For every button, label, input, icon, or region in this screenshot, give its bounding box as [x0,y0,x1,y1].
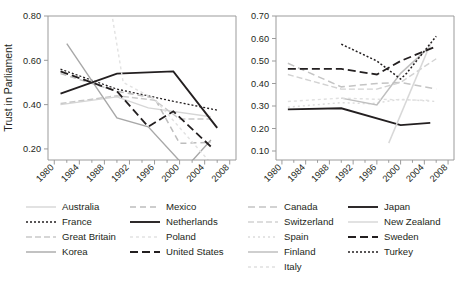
legend-item-korea[interactable]: Korea [26,244,130,259]
legend-label: Switzerland [284,216,334,227]
legend-item-italy[interactable]: Italy [248,259,348,274]
x-tick-label: 2000 [380,162,402,184]
x-tick-label: 2004 [185,162,207,184]
legend-label: Mexico [166,201,196,212]
series-line-canada [288,63,436,89]
legend-column: CanadaSwitzerlandSpainFinlandItaly [248,199,348,274]
legend-label: Japan [384,201,410,212]
x-tick-label: 2008 [210,162,232,184]
y-tick-label: 0.40 [251,79,269,89]
legend-column: MexicoNetherlandsPolandUnited States [130,199,248,259]
legend-item-france[interactable]: France [26,214,130,229]
legend-swatch-italy [248,262,278,272]
x-tick-label: 1996 [134,162,156,184]
legend-swatch-france [26,217,56,227]
x-tick-label: 1988 [84,162,106,184]
legend-swatch-great-britain [26,232,56,242]
legend-swatch-spain [248,232,278,242]
legend-item-great-britain[interactable]: Great Britain [26,229,130,244]
legend-label: Korea [62,246,88,257]
series-line-japan [288,108,430,125]
y-tick-label: 0.70 [251,11,269,21]
legend-swatch-korea [26,247,56,257]
legend-item-new-zealand[interactable]: New Zealand [348,214,460,229]
series-line-great-britain [61,96,211,119]
legend-column: AustraliaFranceGreat BritainKorea [26,199,130,259]
legend-column: JapanNew ZealandSwedenTurkey [348,199,460,274]
legend-item-canada[interactable]: Canada [248,199,348,214]
x-tick-label: 2008 [428,162,450,184]
legend-item-united-states[interactable]: United States [130,244,248,259]
series-line-new-zealand [389,44,431,143]
legend-item-netherlands[interactable]: Netherlands [130,214,248,229]
legend-label: Finland [284,246,315,257]
x-tick-label: 1980 [34,162,56,184]
legend-label: Italy [284,261,302,272]
y-tick-label: 0.60 [23,56,41,66]
x-tick-label: 2000 [159,162,181,184]
legend-swatch-sweden [348,232,378,242]
legend-swatch-poland [130,232,160,242]
legend-item-australia[interactable]: Australia [26,199,130,214]
x-tick-label: 2004 [404,162,426,184]
legend-swatch-united-states [130,247,160,257]
y-tick-label: 0.80 [23,11,41,21]
figure-container: 0.800.600.400.20198019841988199219962000… [0,0,462,282]
legend-item-sweden[interactable]: Sweden [348,229,460,244]
left-chart-panel: 0.800.600.400.20198019841988199219962000… [0,0,240,200]
legend-item-japan[interactable]: Japan [348,199,460,214]
legend-swatch-japan [348,202,378,212]
x-tick-label: 1992 [333,162,355,184]
legend-item-mexico[interactable]: Mexico [130,199,248,214]
legend-label: New Zealand [384,216,441,227]
legend-label: Poland [166,231,196,242]
legend-label: Netherlands [166,216,218,227]
x-tick-label: 1984 [286,162,308,184]
series-line-mexico [61,74,211,144]
legend-swatch-netherlands [130,217,160,227]
legend-swatch-turkey [348,247,378,257]
legend-swatch-finland [248,247,278,257]
legend-swatch-australia [26,202,56,212]
y-axis-title: Trust in Parliament [2,44,14,132]
legend-item-finland[interactable]: Finland [248,244,348,259]
x-tick-label: 1996 [357,162,379,184]
x-tick-label: 1992 [109,162,131,184]
legend-item-spain[interactable]: Spain [248,229,348,244]
legend-swatch-mexico [130,202,160,212]
series-line-united-states [61,71,211,146]
legend-label: Australia [62,201,99,212]
y-tick-label: 0.50 [251,56,269,66]
left-chart-legend: AustraliaFranceGreat BritainKoreaMexicoN… [26,199,248,259]
legend-item-switzerland[interactable]: Switzerland [248,214,348,229]
y-tick-label: 0.30 [251,101,269,111]
right-chart-legend: CanadaSwitzerlandSpainFinlandItalyJapanN… [248,199,460,274]
legend-swatch-new-zealand [348,217,378,227]
series-line-korea [67,44,211,168]
legend-label: United States [166,246,224,257]
legend-label: France [62,216,92,227]
legend-label: Turkey [384,246,413,257]
legend-item-poland[interactable]: Poland [130,229,248,244]
y-tick-label: 0.20 [251,124,269,134]
x-tick-label: 1984 [59,162,81,184]
y-tick-label: 0.10 [251,146,269,156]
legend-label: Canada [284,201,318,212]
x-tick-label: 1988 [309,162,331,184]
legend-label: Spain [284,231,309,242]
y-tick-label: 0.20 [23,144,41,154]
legend-label: Sweden [384,231,419,242]
legend-swatch-canada [248,202,278,212]
legend-label: Great Britain [62,231,116,242]
series-line-turkey [341,36,436,79]
legend-item-turkey[interactable]: Turkey [348,244,460,259]
legend-swatch-switzerland [248,217,278,227]
y-tick-label: 0.60 [251,34,269,44]
right-chart-panel: 0.700.600.500.400.300.200.10198019841988… [240,0,462,200]
y-tick-label: 0.40 [23,100,41,110]
x-tick-label: 1980 [262,162,284,184]
